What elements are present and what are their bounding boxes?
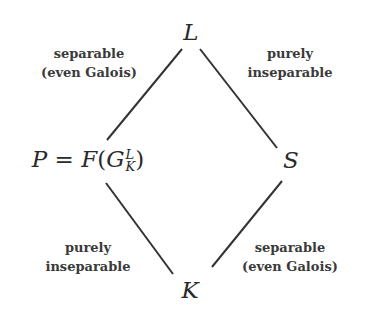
node-p-lhs: P bbox=[32, 146, 47, 172]
diagram-canvas: L P = F(GLK) S K separable (even Galois)… bbox=[0, 0, 367, 314]
node-l-label: L bbox=[183, 19, 198, 45]
edge-label-line: purely bbox=[45, 238, 130, 257]
equals-sign: = bbox=[55, 146, 74, 172]
edge-label-bottom-left: purely inseparable bbox=[45, 238, 130, 276]
node-s-label: S bbox=[283, 147, 299, 173]
galois-group-base: G bbox=[106, 146, 124, 172]
node-p-func: F bbox=[81, 146, 97, 172]
edge-label-top-left: separable (even Galois) bbox=[41, 44, 137, 82]
edge-label-line: inseparable bbox=[247, 63, 332, 82]
node-k: K bbox=[181, 279, 198, 302]
galois-group-scripts: LK bbox=[126, 149, 136, 174]
node-l: L bbox=[183, 21, 198, 44]
edge-label-line: separable bbox=[242, 238, 338, 257]
open-paren: ( bbox=[97, 146, 106, 172]
edge-label-line: (even Galois) bbox=[242, 257, 338, 276]
close-paren: ) bbox=[135, 146, 144, 172]
edge-label-line: (even Galois) bbox=[41, 63, 137, 82]
edge-label-bottom-right: separable (even Galois) bbox=[242, 238, 338, 276]
edge-label-line: separable bbox=[41, 44, 137, 63]
galois-group-sub: K bbox=[126, 161, 136, 173]
node-p: P = F(GLK) bbox=[32, 148, 144, 173]
node-s: S bbox=[283, 149, 299, 172]
node-k-label: K bbox=[181, 277, 198, 303]
edge-label-line: purely bbox=[247, 44, 332, 63]
edge-label-line: inseparable bbox=[45, 257, 130, 276]
edge-label-top-right: purely inseparable bbox=[247, 44, 332, 82]
